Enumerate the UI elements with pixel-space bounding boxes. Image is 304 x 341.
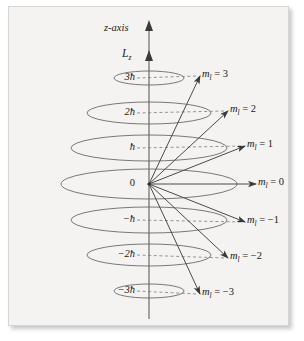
- level-dashline-m2: [137, 111, 225, 113]
- quantization-diagram: [9, 7, 288, 325]
- figure-panel: z-axis Lz 3ħ 2ħ ħ 0 −ħ −2ħ −3ħ ml = 3 ml…: [8, 6, 289, 326]
- level-dashline-mneg3: [137, 291, 197, 294]
- lz-arrowhead-icon: [145, 50, 153, 61]
- level-dashline-m3: [137, 76, 197, 78]
- vector-mneg3: [149, 184, 200, 294]
- vector-m3: [149, 76, 200, 184]
- level-dashline-mneg2: [137, 255, 225, 258]
- origin-point: [147, 182, 150, 185]
- z-axis-arrowhead-icon: [145, 20, 153, 31]
- angular-momentum-figure: z-axis Lz 3ħ 2ħ ħ 0 −ħ −2ħ −3ħ ml = 3 ml…: [0, 0, 304, 341]
